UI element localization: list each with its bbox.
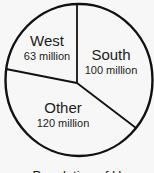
pie-outline [6,4,153,156]
slice-south-label: South [91,46,130,63]
slice-west-label: West [30,32,65,49]
chart-caption: Population of U [33,168,122,173]
slice-west: West 63 million [24,32,70,62]
slice-other-value: 120 million [37,117,90,129]
slice-west-value: 63 million [24,50,70,62]
slice-other-label: Other [44,99,82,116]
slice-south-value: 100 million [85,64,138,76]
slice-south: South 100 million [85,46,138,76]
slice-other: Other 120 million [37,99,90,129]
pie-chart: West 63 million South 100 million Other … [0,0,154,173]
